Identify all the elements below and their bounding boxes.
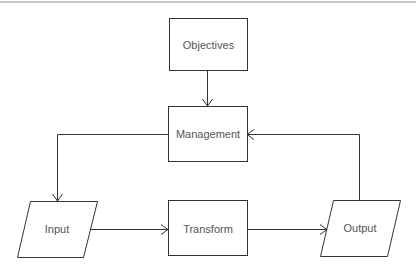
node-output-label: Output [343,222,376,234]
edge-objectives-management [203,71,213,106]
node-management-label: Management [176,128,240,140]
node-management: Management [169,107,248,162]
node-objectives: Objectives [170,19,248,71]
flowchart-diagram: Objectives Management Input Transform Ou… [0,0,416,271]
node-input: Input [18,202,98,258]
node-input-label: Input [45,223,69,235]
node-objectives-label: Objectives [183,39,235,51]
node-output: Output [321,201,401,257]
edge-transform-output [247,225,327,235]
node-transform: Transform [169,201,248,256]
edge-input-transform [90,225,168,235]
node-transform-label: Transform [183,223,233,235]
edge-management-input [53,135,169,202]
edge-output-management [247,130,360,201]
